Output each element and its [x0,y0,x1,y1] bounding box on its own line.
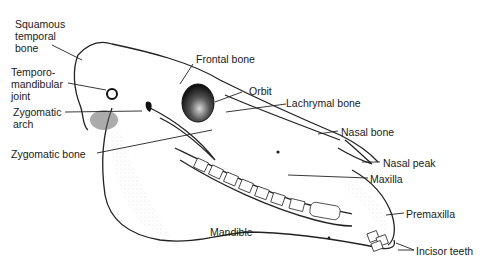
label-line: bone [15,42,65,54]
leader-lines [52,45,414,250]
label-zygomatic-bone: Zygomatic bone [11,148,86,160]
label-zygomatic-arch: Zygomatic arch [13,106,61,130]
label-premaxilla: Premaxilla [406,208,455,220]
cheek-teeth [193,158,341,221]
label-nasal-bone: Nasal bone [341,126,394,138]
orbit-shape [182,84,214,122]
label-mandible: Mandible [210,226,253,238]
label-squamous-temporal-bone: Squamous temporal bone [15,18,65,54]
label-frontal-bone: Frontal bone [196,53,255,65]
label-line: joint [11,90,63,102]
label-lachrymal-bone: Lachrymal bone [286,97,361,109]
tmj-shape [107,89,117,99]
label-nasal-peak: Nasal peak [383,157,436,169]
label-line: arch [13,118,61,130]
label-line: mandibular [11,78,63,90]
label-line: temporal [15,30,65,42]
label-temporomandibular-joint: Temporo- mandibular joint [11,66,63,102]
label-maxilla: Maxilla [370,173,403,185]
label-line: Zygomatic [13,106,61,118]
label-line: Temporo- [11,66,63,78]
label-incisor-teeth: Incisor teeth [416,245,473,257]
label-orbit: Orbit [249,85,272,97]
label-line: Squamous [15,18,65,30]
premaxilla-shading [345,178,390,238]
